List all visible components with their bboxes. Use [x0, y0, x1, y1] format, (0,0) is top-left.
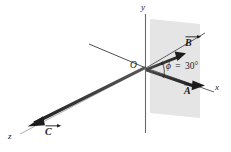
vector-label-c-text: C: [45, 126, 52, 137]
vector-label-b-text: B: [185, 37, 192, 48]
diagram-canvas: [0, 0, 231, 152]
vector-label-a: A: [184, 86, 191, 96]
angle-value: 30°: [185, 61, 198, 71]
axis-label-z: z: [8, 132, 12, 141]
angle-equals: =: [173, 61, 182, 71]
vector-label-c: C: [45, 127, 52, 137]
angle-symbol: ϕ: [166, 61, 171, 71]
axis-label-y: y: [141, 3, 145, 12]
vector-diagram-figure: y x z O B A C: [0, 0, 231, 152]
vector-label-a-text: A: [184, 85, 191, 96]
origin-label: O: [130, 61, 137, 71]
vector-c-arrow: [28, 66, 146, 126]
angle-label: ϕ = 30°: [166, 62, 198, 72]
axis-label-x: x: [215, 83, 219, 92]
vector-label-b: B: [185, 38, 192, 48]
